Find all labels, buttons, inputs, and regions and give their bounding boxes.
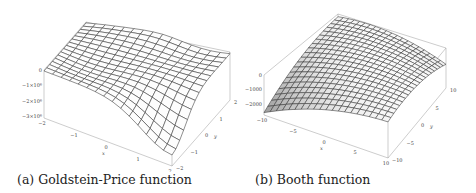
x-tick-label: 5 bbox=[353, 149, 356, 155]
x-axis-label: x bbox=[102, 150, 105, 156]
x-axis-line bbox=[264, 115, 388, 158]
z-tick-label: −1×10⁶ bbox=[22, 82, 42, 88]
booth-surface-plot: 0−1000−2000−10−50510x−10−50510y bbox=[240, 0, 476, 172]
y-axis-label: y bbox=[429, 123, 433, 130]
z-tick-label: 0 bbox=[259, 72, 262, 78]
y-tick-label: 10 bbox=[450, 87, 456, 93]
figure-goldstein-price: 0−1×10⁶−2×10⁶−3×10⁶−2−1012x−2−1012y (a) … bbox=[0, 0, 240, 193]
y-tick-label: −1 bbox=[191, 149, 198, 155]
y-tick-label: −5 bbox=[407, 140, 414, 146]
x-tick-label: 0 bbox=[322, 139, 325, 145]
x-tick-label: −1 bbox=[70, 132, 77, 138]
y-tick-label: 1 bbox=[220, 116, 223, 122]
z-tick-label: 0 bbox=[39, 67, 42, 73]
y-tick-label: 2 bbox=[234, 99, 237, 105]
x-tick-label: −10 bbox=[257, 117, 268, 123]
z-tick-label: −1000 bbox=[245, 86, 262, 92]
x-tick-label: −5 bbox=[289, 128, 296, 134]
y-tick-label: 0 bbox=[421, 122, 424, 128]
goldstein-price-surface-plot: 0−1×10⁶−2×10⁶−3×10⁶−2−1012x−2−1012y bbox=[0, 0, 240, 172]
caption-booth: (b) Booth function bbox=[255, 172, 370, 187]
figure-booth: 0−1000−2000−10−50510x−10−50510y (b) Boot… bbox=[240, 0, 476, 193]
x-tick-label: −2 bbox=[38, 120, 45, 126]
z-tick-label: −2000 bbox=[245, 101, 262, 107]
x-tick-label: 1 bbox=[136, 156, 139, 162]
caption-goldstein-price: (a) Goldstein-Price function bbox=[17, 172, 192, 187]
y-tick-label: −2 bbox=[176, 165, 183, 171]
surface-mesh bbox=[264, 17, 446, 122]
y-tick-label: 0 bbox=[205, 132, 208, 138]
x-tick-label: 0 bbox=[104, 144, 107, 150]
z-tick-label: −2×10⁶ bbox=[22, 98, 42, 104]
z-tick-label: −3×10⁶ bbox=[22, 113, 42, 119]
x-axis-label: x bbox=[320, 145, 323, 151]
x-tick-label: 10 bbox=[383, 160, 389, 166]
y-tick-label: −10 bbox=[392, 157, 403, 163]
y-axis-label: y bbox=[213, 133, 217, 140]
y-tick-label: 5 bbox=[436, 105, 439, 111]
